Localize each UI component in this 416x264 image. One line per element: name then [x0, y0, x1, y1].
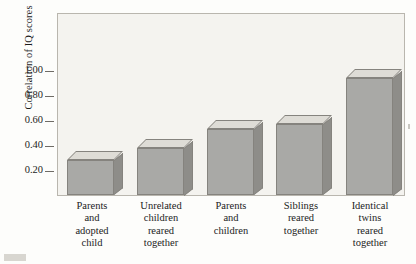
x-axis-label-line: together — [122, 237, 200, 249]
x-axis-label: Parentsandchildren — [192, 200, 270, 237]
x-axis-label: Identicaltwinsrearedtogether — [331, 200, 409, 250]
bar — [276, 124, 323, 195]
x-axis-label-line: Identical — [331, 200, 409, 212]
bar-top-face — [276, 115, 332, 124]
bar — [67, 160, 114, 195]
y-tick-mark — [45, 146, 54, 147]
bar-front-face — [67, 160, 114, 195]
x-axis-label-line: Siblings — [262, 200, 340, 212]
x-axis-label-line: together — [331, 237, 409, 249]
bar-top-face — [67, 151, 123, 160]
y-tick-mark — [45, 121, 54, 122]
caption-rule — [4, 254, 26, 261]
x-axis-label-line: and — [53, 212, 131, 224]
y-tick-label: 0.20 — [0, 164, 43, 175]
bar-top-face — [137, 139, 193, 148]
bar-side-face — [184, 140, 193, 195]
x-axis-label-line: Parents — [53, 200, 131, 212]
x-axis-label: Unrelatedchildrenrearedtogether — [122, 200, 200, 250]
x-axis-label: Siblingsrearedtogether — [262, 200, 340, 237]
bar-top-face — [207, 120, 263, 129]
x-axis-label-line: child — [53, 237, 131, 249]
x-axis-label-line: together — [262, 225, 340, 237]
bar-side-face — [393, 70, 402, 195]
x-axis-label-line: twins — [331, 212, 409, 224]
plot-area — [57, 13, 405, 196]
x-axis-label-line: Unrelated — [122, 200, 200, 212]
x-axis-label-line: and — [192, 212, 270, 224]
bar-front-face — [137, 148, 184, 196]
x-axis-label-line: Parents — [192, 200, 270, 212]
y-tick-mark — [45, 71, 54, 72]
y-tick-label: 0.40 — [0, 139, 43, 150]
y-tick-label: 0.80 — [0, 89, 43, 100]
y-tick-mark — [45, 171, 54, 172]
bar-top-face — [346, 69, 402, 78]
chart-figure: Correlation of IQ scores 0.200.400.600.8… — [0, 0, 416, 264]
bar-side-face — [114, 153, 123, 195]
bar — [207, 129, 254, 195]
x-axis-label: Parentsandadoptedchild — [53, 200, 131, 250]
x-axis-label-line: children — [122, 212, 200, 224]
bar-side-face — [254, 122, 263, 195]
y-tick-mark — [45, 96, 54, 97]
bar-front-face — [207, 129, 254, 195]
x-axis-label-line: adopted — [53, 225, 131, 237]
x-axis-label-line: reared — [122, 225, 200, 237]
bar-side-face — [323, 117, 332, 195]
bar — [346, 78, 393, 196]
x-axis-label-line: children — [192, 225, 270, 237]
x-axis-label-line: reared — [262, 212, 340, 224]
bar-front-face — [276, 124, 323, 195]
bar — [137, 148, 184, 196]
y-tick-label: 0.60 — [0, 114, 43, 125]
bar-front-face — [346, 78, 393, 196]
y-tick-label: 1.00 — [0, 64, 43, 75]
page-edge-mark — [408, 124, 410, 129]
x-axis-label-line: reared — [331, 225, 409, 237]
